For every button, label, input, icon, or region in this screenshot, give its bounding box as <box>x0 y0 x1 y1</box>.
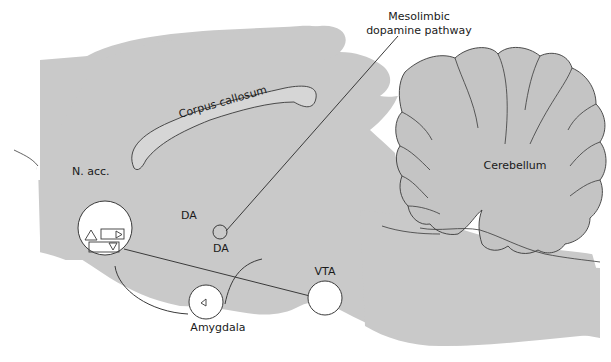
da-upper-label: DA <box>181 209 197 222</box>
n-acc-label: N. acc. <box>72 165 110 178</box>
cerebellum-label: Cerebellum <box>483 159 546 172</box>
n-acc-node <box>78 201 132 255</box>
da-lower-label: DA <box>213 242 229 255</box>
vta-node <box>308 281 342 315</box>
pathway-label-line2: dopamine pathway <box>366 24 472 37</box>
vta-label: VTA <box>315 265 336 278</box>
diagram-canvas: Corpus callosum Mesolimbic dopamine path… <box>0 0 611 362</box>
amygdala-label: Amygdala <box>190 321 245 334</box>
cerebellum <box>396 47 606 253</box>
pathway-label-line1: Mesolimbic <box>388 10 450 23</box>
